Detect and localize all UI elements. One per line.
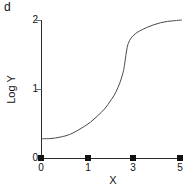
data-marker-x0 [38, 155, 44, 161]
sigmoid-curve [42, 20, 182, 139]
data-marker-x1 [85, 155, 91, 161]
plot-area [0, 0, 191, 193]
data-marker-x5 [177, 155, 183, 161]
data-marker-x3 [130, 155, 136, 161]
chart-figure: d Log Y X 2 1 0 0 1 3 5 [0, 0, 191, 193]
